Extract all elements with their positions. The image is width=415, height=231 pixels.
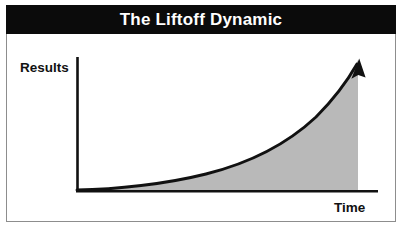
x-axis-label: Time	[334, 201, 365, 215]
title-banner: The Liftoff Dynamic	[6, 5, 396, 34]
liftoff-dynamic-figure: The Liftoff Dynamic Results Time	[0, 0, 415, 231]
plot-area: Results Time	[6, 34, 396, 222]
y-axis-label: Results	[20, 61, 69, 75]
page-title: The Liftoff Dynamic	[120, 11, 282, 28]
